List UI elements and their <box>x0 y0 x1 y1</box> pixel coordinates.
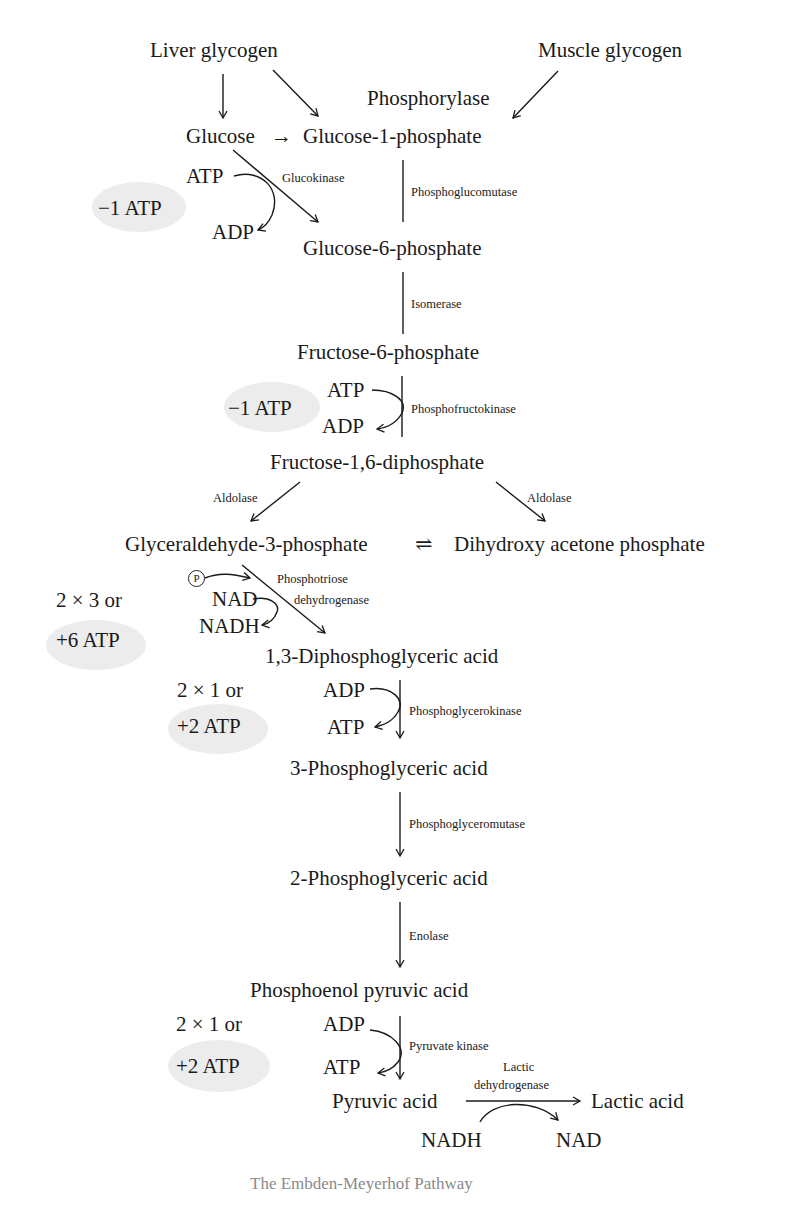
aldolase-left-enzyme-label: Aldolase <box>213 492 257 505</box>
lactic-enzyme-label: Lactic <box>503 1061 534 1074</box>
pfk-adp-out: ADP <box>322 416 364 437</box>
phosphoglucomutase-enzyme-label: Phosphoglucomutase <box>411 186 517 199</box>
gapdh-multiplier-label: 2 × 3 or <box>56 590 122 611</box>
pgk-atp-out: ATP <box>327 717 364 738</box>
glucokinase-enzyme-label: Glucokinase <box>282 172 344 185</box>
pyruvate-kinase-enzyme-label: Pyruvate kinase <box>409 1040 489 1053</box>
pgk-multiplier-label: 2 × 1 or <box>177 680 243 701</box>
pfk-atp-balance: −1 ATP <box>228 398 292 419</box>
enolase-enzyme-label: Enolase <box>409 930 449 943</box>
glucokinase-atp-balance: −1 ATP <box>98 198 162 219</box>
dihydroxy-acetone-phosphate-label: Dihydroxy acetone phosphate <box>454 534 705 555</box>
phosphoglyceric-acid-3-label: 3-Phosphoglyceric acid <box>290 758 488 779</box>
pgk-atp-balance: +2 ATP <box>177 716 241 737</box>
pk-atp-out: ATP <box>323 1057 360 1078</box>
pk-atp-balance: +2 ATP <box>176 1056 240 1077</box>
pk-adp-in: ADP <box>323 1014 365 1035</box>
glucokinase-adp-out: ADP <box>212 222 254 243</box>
glucose-to-g1p-arrow: → <box>271 126 292 147</box>
pgk-adp-in: ADP <box>323 680 365 701</box>
gapdh-nadh-out: NADH <box>199 616 260 637</box>
muscle-glycogen-label: Muscle glycogen <box>538 40 682 61</box>
glucose-1-phosphate-label: Glucose-1-phosphate <box>303 126 481 147</box>
fructose-6-phosphate-label: Fructose-6-phosphate <box>297 342 479 363</box>
aldolase-right-enzyme-label: Aldolase <box>527 492 571 505</box>
phosphotriose-enzyme-label: Phosphotriose <box>277 573 348 586</box>
glucose-label: Glucose <box>186 126 255 147</box>
gapdh-nad-in: NAD <box>212 589 258 610</box>
lactic-dehydrogenase-enzyme-label: dehydrogenase <box>474 1079 549 1092</box>
fructose-1-6-diphosphate-label: Fructose-1,6-diphosphate <box>270 452 484 473</box>
glucokinase-atp-in: ATP <box>186 166 223 187</box>
glucose-6-phosphate-label: Glucose-6-phosphate <box>303 238 481 259</box>
phosphorylase-label: Phosphorylase <box>367 88 490 109</box>
phosphoglycerokinase-enzyme-label: Phosphoglycerokinase <box>409 705 521 718</box>
pk-multiplier-label: 2 × 1 or <box>176 1014 242 1035</box>
lactic-acid-label: Lactic acid <box>591 1091 684 1112</box>
embden-meyerhof-diagram: Liver glycogen Muscle glycogen Phosphory… <box>0 0 793 1222</box>
phosphoglyceric-acid-2-label: 2-Phosphoglyceric acid <box>290 868 488 889</box>
phosphofructokinase-enzyme-label: Phosphofructokinase <box>411 403 516 416</box>
pyruvic-acid-label: Pyruvic acid <box>332 1091 438 1112</box>
diphosphoglyceric-acid-label: 1,3-Diphosphoglyceric acid <box>265 646 498 667</box>
ldh-nad-out: NAD <box>556 1130 602 1151</box>
diagram-caption: The Embden-Meyerhof Pathway <box>250 1175 473 1192</box>
phosphate-circle-icon: P <box>188 570 205 587</box>
phosphoglyceromutase-enzyme-label: Phosphoglyceromutase <box>409 818 525 831</box>
equilibrium-arrow: ⇌ <box>415 534 433 555</box>
isomerase-enzyme-label: Isomerase <box>411 298 462 311</box>
dehydrogenase-enzyme-label: dehydrogenase <box>294 594 369 607</box>
gapdh-atp-balance: +6 ATP <box>56 630 120 651</box>
phosphoenol-pyruvic-acid-label: Phosphoenol pyruvic acid <box>250 980 468 1001</box>
ldh-nadh-in: NADH <box>421 1130 482 1151</box>
glyceraldehyde-3-phosphate-label: Glyceraldehyde-3-phosphate <box>125 534 368 555</box>
liver-glycogen-label: Liver glycogen <box>150 40 278 61</box>
pfk-atp-in: ATP <box>327 380 364 401</box>
